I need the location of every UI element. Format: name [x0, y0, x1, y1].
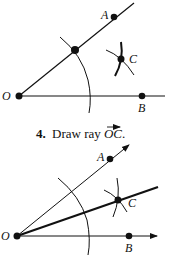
step-caption: 4. Draw ray OC. [36, 126, 125, 141]
caption-step-number: 4. [36, 126, 46, 141]
label-o: O [1, 229, 10, 243]
label-b: B [138, 101, 146, 115]
point-arc-intersection [71, 46, 79, 54]
label-c: C [129, 52, 138, 66]
top-figure: O A B C [2, 3, 165, 115]
svg-text:4. Draw ray OC.: 4. Draw ray OC. [36, 126, 125, 141]
caption-text: Draw ray [52, 126, 104, 141]
label-o: O [2, 89, 11, 103]
point-o [14, 233, 21, 240]
bottom-figure: O A B C [1, 145, 158, 255]
label-b: B [125, 241, 133, 255]
ray-oc-bisector [17, 187, 158, 236]
angle-bisector-construction: O A B C 4. Draw ray OC. O A B C [0, 0, 175, 264]
point-b [126, 233, 133, 240]
point-b [139, 93, 146, 100]
label-c: C [128, 196, 137, 210]
label-a: A [100, 8, 109, 22]
label-a: A [96, 150, 105, 164]
point-a [111, 14, 118, 21]
point-a [107, 156, 114, 163]
point-c [115, 197, 122, 204]
caption-ray-name: OC [104, 126, 122, 141]
caption-period: . [122, 126, 125, 141]
point-c [118, 56, 125, 63]
point-o [16, 93, 23, 100]
